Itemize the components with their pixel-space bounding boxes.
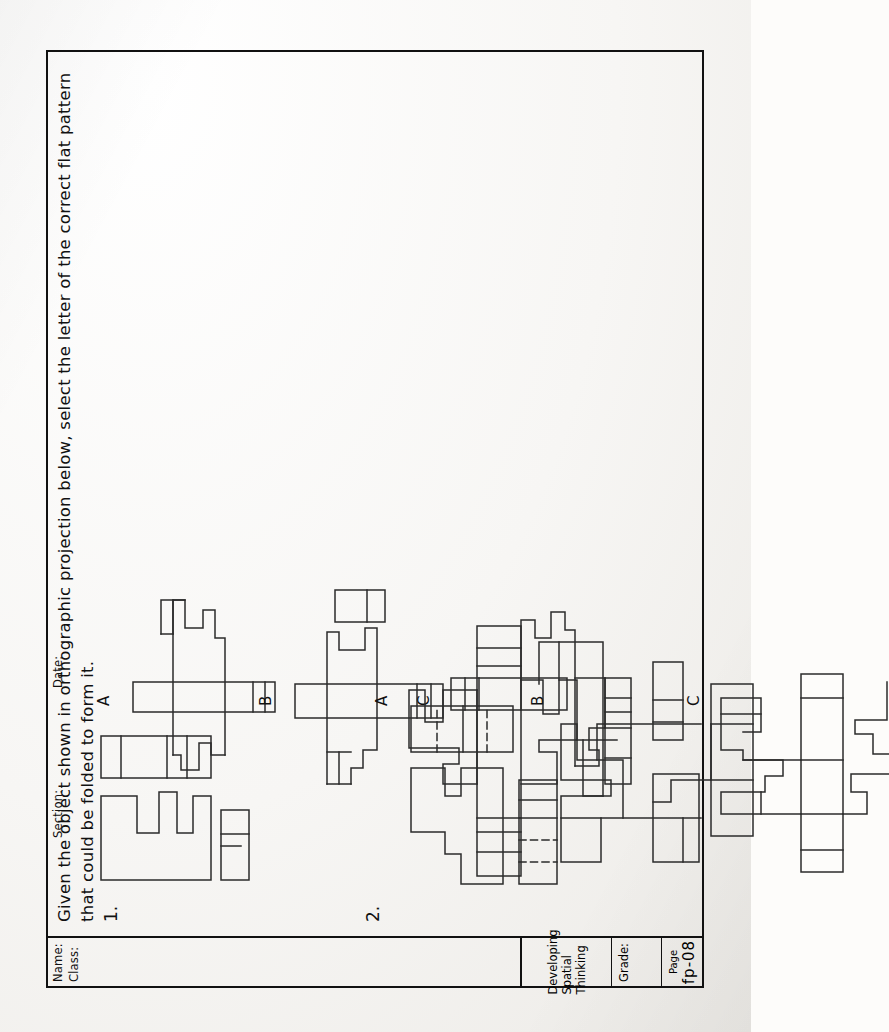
problem-2-option-b-pattern bbox=[553, 642, 718, 872]
problem-2-option-c-pattern bbox=[709, 642, 889, 872]
problem-1-number: 1. bbox=[101, 906, 121, 922]
problem-1-option-a-pattern bbox=[129, 578, 279, 778]
worksheet-title-text: Developing Spatial Thinking bbox=[522, 936, 611, 988]
title-block-page: Page fp-08 bbox=[662, 936, 704, 988]
problem-1-option-a-letter: A bbox=[95, 696, 113, 706]
problem-1-option-b-letter: B bbox=[257, 696, 275, 706]
title-block: Name: Class: Section: Date: Developing S… bbox=[46, 936, 704, 988]
title-block-grade: Grade: bbox=[612, 936, 662, 988]
problem-2-number: 2. bbox=[363, 906, 383, 922]
name-label: Name: bbox=[51, 943, 65, 982]
problem-2-option-a-letter: A bbox=[373, 696, 391, 706]
page-number: fp-08 bbox=[680, 940, 698, 984]
page-label: Page bbox=[668, 950, 679, 974]
worksheet-sheet: Name: Class: Section: Date: Developing S… bbox=[33, 36, 719, 996]
problem-2-option-b-letter: B bbox=[529, 696, 547, 706]
title-block-worksheet-title: Developing Spatial Thinking bbox=[522, 936, 612, 988]
problem-2-option-c-letter: C bbox=[685, 696, 703, 706]
grade-label: Grade: bbox=[617, 943, 631, 982]
title-block-student-fields: Name: Class: Section: Date: bbox=[46, 936, 522, 988]
class-label: Class: bbox=[67, 947, 81, 982]
